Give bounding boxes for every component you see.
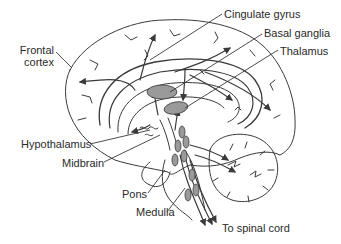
label-hypothalamus: Hypothalamus [21, 138, 91, 150]
leader-frontal-cortex [56, 52, 72, 68]
label-pons: Pons [122, 188, 147, 200]
label-medulla: Medulla [136, 206, 175, 218]
brain-diagram: Frontal cortex Cingulate gyrus Basal gan… [0, 0, 341, 244]
cerebellum-outline [209, 134, 278, 201]
label-midbrain: Midbrain [62, 157, 104, 169]
nucleus [183, 136, 189, 148]
nucleus [193, 184, 199, 196]
basal-ganglia-shape [147, 85, 177, 99]
label-frontal-cortex-line1: Frontal [14, 44, 54, 56]
label-basal-ganglia: Basal ganglia [264, 27, 330, 39]
nucleus [189, 169, 195, 181]
leader-basal-ganglia [170, 34, 262, 92]
label-cingulate-gyrus: Cingulate gyrus [224, 8, 300, 20]
nucleus [185, 189, 191, 201]
label-frontal-cortex-line2: cortex [14, 56, 54, 68]
nucleus [175, 140, 181, 152]
label-thalamus: Thalamus [280, 45, 328, 57]
label-frontal-cortex: Frontal cortex [14, 44, 54, 68]
label-to-spinal-cord: To spinal cord [222, 222, 290, 234]
leader-hypothalamus [90, 130, 150, 144]
leader-cingulate-gyrus [150, 14, 222, 60]
nucleus [172, 154, 178, 166]
nucleus [179, 126, 185, 138]
nucleus [181, 150, 187, 162]
